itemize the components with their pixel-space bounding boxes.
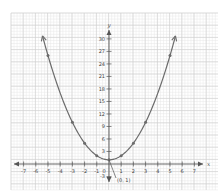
x-tick-label: 4	[156, 168, 159, 174]
data-point	[169, 54, 172, 57]
annotation-label: (0, 1)	[117, 177, 130, 183]
x-tick-label: -7	[21, 168, 26, 174]
x-tick-label: 3	[144, 168, 147, 174]
y-tick-label: 30	[99, 36, 105, 42]
y-tick-label: 15	[99, 98, 105, 104]
data-point	[95, 154, 98, 157]
x-tick-label: 1	[120, 168, 123, 174]
y-tick-label: 9	[102, 123, 105, 129]
y-tick-label: 12	[99, 111, 105, 117]
data-point	[120, 154, 123, 157]
data-point	[47, 54, 50, 57]
x-tick-label: 6	[181, 168, 184, 174]
y-axis-down-arrow-icon	[107, 177, 112, 182]
x-tick-label: -4	[58, 168, 63, 174]
data-point	[83, 142, 86, 145]
y-axis-up-arrow-icon	[107, 30, 112, 35]
x-tick-label: 5	[168, 168, 171, 174]
x-tick-label: 2	[132, 168, 135, 174]
y-tick-label: 3	[102, 148, 105, 154]
data-point	[132, 142, 135, 145]
y-tick-label: 27	[99, 48, 105, 54]
y-tick-label: -3	[100, 173, 105, 179]
y-tick-label: 21	[99, 73, 105, 79]
axes: xy	[14, 22, 211, 182]
parabola-chart: xy -7-6-5-4-3-2-112345670-33691215182124…	[0, 0, 224, 196]
data-point	[71, 121, 74, 124]
x-tick-label: -5	[46, 168, 51, 174]
x-tick-label: -6	[33, 168, 38, 174]
x-tick-label: -3	[70, 168, 75, 174]
data-point	[144, 121, 147, 124]
y-tick-label: 24	[99, 61, 105, 67]
x-tick-label: -1	[94, 168, 99, 174]
y-tick-label: 18	[99, 86, 105, 92]
x-tick-label: -2	[82, 168, 87, 174]
x-tick-label: 7	[193, 168, 196, 174]
y-tick-label: 6	[102, 136, 105, 142]
x-axis-label: x	[207, 161, 211, 167]
